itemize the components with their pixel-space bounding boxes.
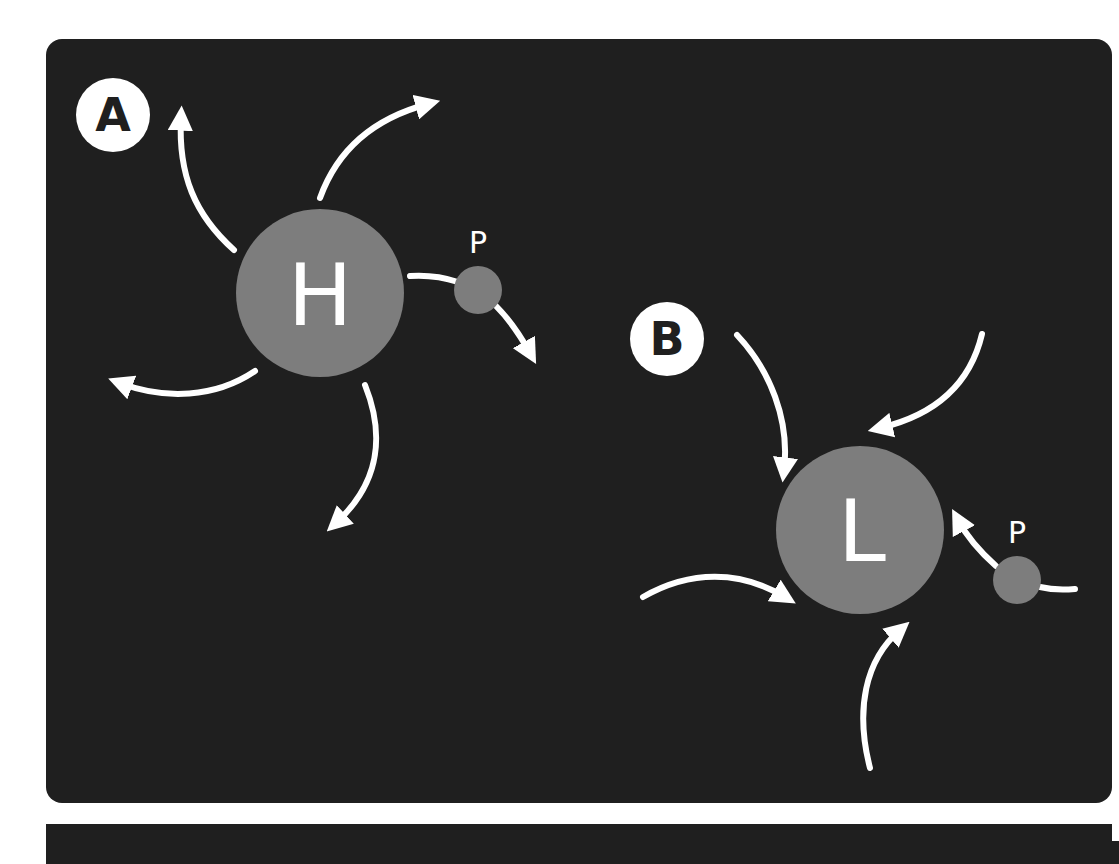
- arrow-in-ne: [880, 334, 982, 428]
- badge-a: A: [76, 78, 150, 152]
- particle-b: P: [993, 515, 1041, 604]
- panel-a: A H P: [76, 78, 530, 523]
- low-pressure-label: L: [838, 481, 886, 581]
- arrow-in-s: [863, 630, 900, 768]
- arrow-particle-b-in: [958, 520, 996, 566]
- badge-a-label: A: [95, 88, 131, 142]
- arrow-out-ne: [320, 104, 428, 198]
- arrow-out-s: [336, 385, 376, 523]
- arrow-out-sw: [120, 371, 255, 394]
- high-pressure-label: H: [288, 245, 353, 345]
- panel-b: B L P: [630, 302, 1075, 768]
- arrow-in-nw: [737, 335, 785, 470]
- badge-b-label: B: [649, 312, 684, 366]
- arrow-out-nw: [181, 118, 234, 250]
- arrow-particle-a-out: [496, 306, 530, 353]
- arrow-particle-a: [410, 276, 458, 282]
- particle-a: P: [454, 225, 502, 314]
- particle-b-label: P: [1008, 515, 1026, 550]
- arrow-in-w: [643, 577, 785, 597]
- particle-a-label: P: [469, 225, 487, 260]
- arrow-particle-b-tail: [1040, 587, 1075, 590]
- badge-b: B: [630, 302, 704, 376]
- low-pressure-node: L: [776, 446, 944, 614]
- right-page-edge: [1112, 0, 1119, 841]
- high-pressure-node: H: [236, 209, 404, 377]
